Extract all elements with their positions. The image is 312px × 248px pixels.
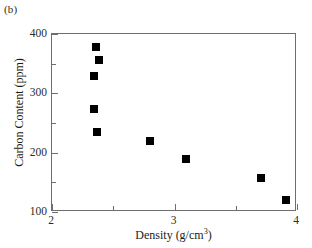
- y-axis-title: Carbon Content (ppm): [12, 23, 27, 203]
- data-point: [282, 196, 290, 204]
- x-axis-tick: [297, 204, 298, 210]
- y-axis-tick-label: 400: [30, 27, 47, 39]
- data-point: [95, 56, 103, 64]
- y-axis-tick: [52, 93, 58, 94]
- data-point: [92, 43, 100, 51]
- data-point: [90, 105, 98, 113]
- y-axis-tick: [52, 212, 58, 213]
- y-axis-minor-tick: [52, 182, 56, 183]
- x-axis-tick-label: 3: [171, 214, 177, 226]
- data-point: [93, 128, 101, 136]
- x-axis-tick: [52, 204, 53, 210]
- data-point: [182, 155, 190, 163]
- y-axis-tick-label: 200: [30, 146, 47, 158]
- y-axis-tick-label: 300: [30, 86, 47, 98]
- x-axis-tick-label: 4: [293, 214, 299, 226]
- y-axis-minor-tick: [52, 123, 56, 124]
- data-point: [90, 72, 98, 80]
- x-axis-title: Density (g/cm3): [51, 228, 296, 243]
- x-axis-title-exponent: 3: [204, 227, 208, 236]
- y-axis-minor-tick: [52, 64, 56, 65]
- scatter-chart-figure: 100200300400 234 Density (g/cm3) Carbon …: [0, 0, 312, 248]
- y-axis-tick-label: 100: [30, 205, 47, 217]
- y-axis-tick: [52, 34, 58, 35]
- data-point: [146, 137, 154, 145]
- x-axis-tick-label: 2: [48, 214, 54, 226]
- y-axis-tick: [52, 153, 58, 154]
- data-point-layer: [52, 34, 295, 210]
- plot-frame: [51, 33, 296, 211]
- x-axis-minor-tick: [236, 206, 237, 210]
- data-point: [257, 174, 265, 182]
- x-axis-tick: [175, 204, 176, 210]
- x-axis-minor-tick: [113, 206, 114, 210]
